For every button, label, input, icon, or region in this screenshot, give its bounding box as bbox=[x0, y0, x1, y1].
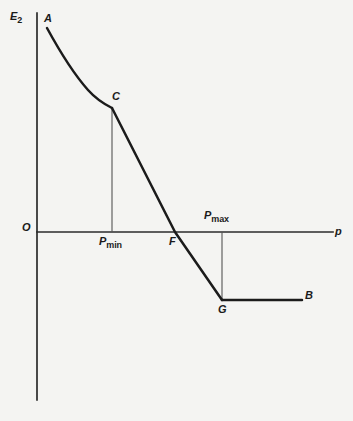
curve-segment-cfg bbox=[112, 108, 222, 300]
p-max-label: Pmax bbox=[204, 210, 229, 221]
p-min-label-subscript: min bbox=[106, 240, 121, 250]
x-axis-label: p bbox=[335, 226, 342, 237]
origin-label: O bbox=[22, 222, 31, 233]
point-label-a: A bbox=[44, 13, 52, 24]
chart-plot-area bbox=[0, 0, 353, 421]
y-axis-label: E2 bbox=[10, 11, 22, 22]
point-label-b: B bbox=[305, 290, 313, 301]
point-label-c: C bbox=[112, 91, 120, 102]
point-label-g: G bbox=[218, 304, 227, 315]
point-label-f: F bbox=[169, 236, 176, 247]
chart-figure: E2 p O Pmin Pmax A C F G B bbox=[0, 0, 353, 421]
y-axis-label-subscript: 2 bbox=[17, 15, 22, 25]
p-min-label: Pmin bbox=[99, 236, 122, 247]
curve-segment-ac bbox=[47, 28, 112, 108]
p-max-label-subscript: max bbox=[211, 214, 228, 224]
